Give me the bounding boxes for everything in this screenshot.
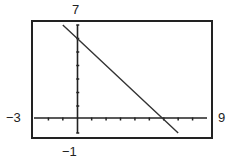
- plotted-line: [63, 25, 178, 133]
- xmax-label: 9: [218, 111, 225, 124]
- ymin-label: −1: [62, 145, 77, 158]
- ymax-label: 7: [72, 3, 79, 16]
- xmin-label: −3: [6, 111, 21, 124]
- graph-window: [0, 0, 235, 160]
